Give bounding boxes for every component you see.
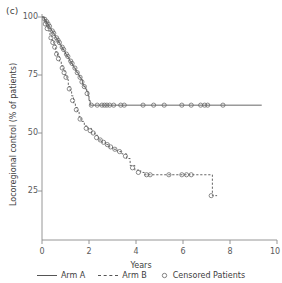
censored-marker [123,154,127,158]
censored-marker [78,117,82,121]
censored-marker [136,170,140,174]
dashed-line-icon [98,272,118,279]
legend-label-arm-a: Arm A [61,271,85,280]
solid-line-icon [37,272,57,279]
curve-arm-b [42,17,217,196]
censored-marker [49,36,53,40]
censored-marker [67,87,71,91]
axis-lines [42,14,277,240]
censored-marker [51,40,55,44]
axis-ticks [38,17,277,244]
censored-marker [64,75,68,79]
censored-marker [130,166,134,170]
open-circle-icon [160,272,169,279]
plot-area [0,0,282,283]
legend-label-censored: Censored Patients [173,271,245,280]
series-arm-a [42,17,262,107]
censored-marker [56,57,60,61]
legend-entry-arm-b: Arm B [98,271,146,280]
censored-marker [85,91,89,95]
legend: Arm A Arm B Censored Patients [0,271,282,280]
kaplan-meier-figure: (c) Locoregional control (% of patients)… [0,0,282,283]
censored-marker [45,27,49,31]
censored-marker [70,98,74,102]
legend-entry-censored: Censored Patients [160,271,245,280]
legend-label-arm-b: Arm B [122,271,146,280]
series-layer [42,17,262,198]
censored-marker [60,66,64,70]
legend-entry-arm-a: Arm A [37,271,85,280]
censored-marker [62,71,66,75]
censored-marker [74,108,78,112]
censored-marker [80,80,84,84]
curve-arm-a [42,17,262,105]
censored-marker [53,45,57,49]
censored-marker [54,52,58,56]
